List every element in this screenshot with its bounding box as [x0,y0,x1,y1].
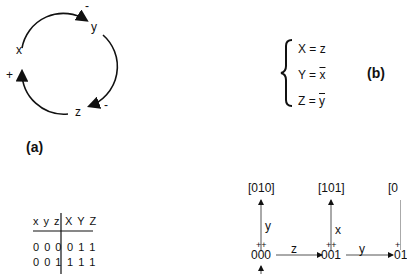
equation-3: Z = y [298,88,326,114]
state-01: 01 [394,248,407,262]
sign-z: - [104,98,108,112]
target-010: [010] [248,181,275,195]
panel-a-label: (a) [26,139,43,155]
table-header-inputs: x y z [33,215,61,227]
sign-x: + [6,68,13,82]
brace [281,40,292,106]
edge-label-y: y [265,219,271,233]
table-row-1-out: 0 1 1 [67,241,96,253]
target-0: [0 [388,181,398,195]
table-row-2-out: 1 1 1 [67,256,96,268]
arc-x-to-y [22,13,86,48]
node-z: z [75,105,81,119]
arc-y-to-z [90,35,117,106]
panel-b-label: (b) [367,65,385,81]
edge-label-z: z [291,242,297,256]
equation-2: Y = x [298,62,326,88]
node-y: y [91,20,97,34]
edge-label-y2: y [359,242,365,256]
sign-y: - [85,0,89,13]
table-row-1-in: 0 0 0 [33,241,62,253]
edge-label-x: x [335,223,341,237]
equations: X = z Y = x Z = y [298,36,326,114]
state-001: 001 [321,248,341,262]
target-101: [101] [318,181,345,195]
table-header-outputs: X Y Z [65,215,97,227]
equation-1: X = z [298,36,326,62]
state-000: 000 [251,248,271,262]
table-row-2-in: 0 0 1 [33,256,62,268]
arc-z-to-x [22,72,68,114]
node-x: x [16,43,22,57]
